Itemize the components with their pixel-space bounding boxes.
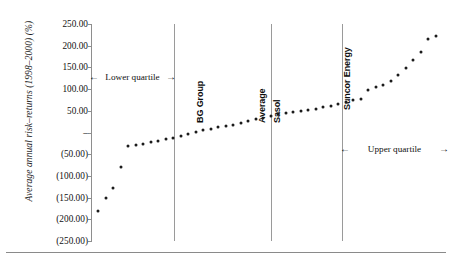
data-point [232,123,235,126]
y-tick-label: (200.00) [18,214,88,224]
data-point [224,124,227,127]
data-point [292,110,295,113]
arrow-right-icon: → [166,72,176,82]
data-point [104,197,107,200]
data-point [119,166,122,169]
data-point [299,109,302,112]
series-label-bg-group: BG Group [195,81,205,123]
arrow-right-icon: → [439,144,449,154]
data-point [277,113,280,116]
data-point [262,116,265,119]
data-point [307,108,310,111]
data-point [127,145,130,148]
data-point [97,210,100,213]
data-point [157,140,160,143]
y-tick-mark [88,89,92,90]
y-tick-label: 250.00 [18,19,88,29]
data-point [142,142,145,145]
lower-quartile-annotation: ← Lower quartile → [89,72,176,82]
data-point [434,35,437,38]
y-tick-mark [88,241,92,242]
data-point [404,67,407,70]
data-point [187,133,190,136]
arrow-left-icon: ← [340,144,350,154]
chart-figure: Average annual risk–returns (1998–2000) … [0,0,452,258]
data-point [359,97,362,100]
data-point [352,99,355,102]
data-point [419,50,422,53]
y-tick-label: (250.00) [18,236,88,246]
divider-lower-quartile-boundary [174,24,175,241]
data-point [202,129,205,132]
data-point [284,111,287,114]
data-point [254,118,257,121]
y-tick-mark [88,219,92,220]
data-point [389,80,392,83]
y-tick-label: – [18,128,88,138]
data-point [247,120,250,123]
upper-quartile-label: Upper quartile [365,144,424,154]
y-tick-label: 50.00 [18,106,88,116]
data-point [179,134,182,137]
data-point [149,141,152,144]
data-point [239,121,242,124]
data-point [322,106,325,109]
data-point [112,186,115,189]
data-point [269,115,272,118]
data-point [164,138,167,141]
data-point [427,38,430,41]
data-point [314,107,317,110]
y-tick-label: 150.00 [18,62,88,72]
arrow-left-icon: ← [89,72,99,82]
data-point [397,74,400,77]
y-tick-label: (150.00) [18,193,88,203]
data-point [194,130,197,133]
data-point [134,143,137,146]
data-point [329,104,332,107]
data-point [344,101,347,104]
data-point [412,58,415,61]
y-tick-mark [88,198,92,199]
y-tick-mark [88,46,92,47]
y-tick-label: 200.00 [18,41,88,51]
data-point [374,86,377,89]
data-point [217,126,220,129]
y-tick-label: (100.00) [18,171,88,181]
bottom-rule [6,252,446,253]
data-point [337,102,340,105]
series-label-sasol: Sasol [272,99,282,123]
y-tick-mark [88,133,92,134]
lower-quartile-label: Lower quartile [102,72,162,82]
data-point [367,88,370,91]
data-point [209,128,212,131]
y-tick-mark [88,111,92,112]
y-tick-label: (50.00) [18,149,88,159]
upper-quartile-annotation: ← Upper quartile → [340,144,449,154]
data-point [382,83,385,86]
y-tick-mark [88,24,92,25]
y-tick-mark [88,176,92,177]
y-tick-label: 100.00 [18,84,88,94]
y-tick-mark [88,67,92,68]
data-point [172,136,175,139]
y-tick-mark [88,154,92,155]
divider-average-boundary [271,24,272,241]
